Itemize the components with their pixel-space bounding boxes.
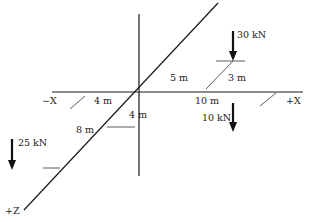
dim-z-5m: 5 m [170, 72, 188, 83]
dim-x-10m: 10 m [195, 95, 219, 106]
load-arrow-25kn [8, 139, 16, 170]
dim-z-3m: 3 m [228, 72, 246, 83]
dim-neg-x-4m: 4 m [94, 95, 112, 106]
load-label-30kn: 30 kN [237, 29, 266, 40]
neg-x-slash [70, 96, 85, 109]
dim-y-4m: 4 m [129, 109, 147, 120]
force-system-diagram: −X +X +Z 4 m 4 m 8 m 5 m 10 m 3 m 30 kN … [0, 0, 312, 222]
dim-z-8m: 8 m [76, 124, 94, 135]
pos-z-label: +Z [5, 205, 20, 216]
pos-x-label: +X [286, 95, 301, 106]
x-end-slash [260, 93, 276, 106]
load-arrow-30kn [229, 31, 237, 61]
neg-x-label: −X [42, 95, 57, 106]
load-label-25kn: 25 kN [18, 137, 47, 148]
z-axis [24, 3, 218, 210]
load-label-10kn: 10 kN [202, 112, 231, 123]
